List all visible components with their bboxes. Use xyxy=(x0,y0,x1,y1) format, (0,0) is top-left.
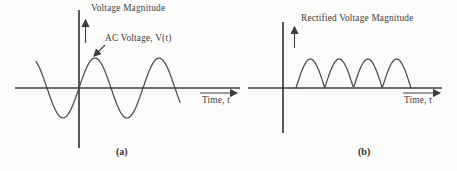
b-x-axis-label: Time, t xyxy=(404,95,432,105)
a-curve-label: AC Voltage, V(t) xyxy=(105,33,171,43)
b-caption: (b) xyxy=(358,146,370,157)
a-caption: (a) xyxy=(116,146,128,157)
b-y-axis-label: Rectified Voltage Magnitude xyxy=(301,13,413,23)
a-x-axis-label: Time, t xyxy=(202,95,230,105)
waveform-figure: Voltage Magnitude AC Voltage, V(t) Time,… xyxy=(0,0,457,171)
panel-b xyxy=(248,22,442,133)
b-rectified-curve xyxy=(296,59,411,88)
panel-a xyxy=(15,10,240,148)
a-annotation-arrow-icon xyxy=(94,45,105,56)
figure-canvas xyxy=(0,0,457,171)
a-y-axis-label: Voltage Magnitude xyxy=(91,3,165,13)
